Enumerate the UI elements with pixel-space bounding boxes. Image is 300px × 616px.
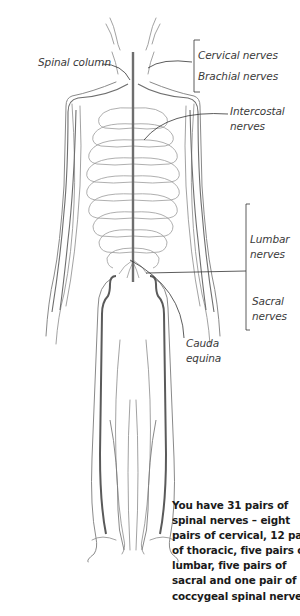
label-cervical-nerves: Cervical nerves [198,45,278,65]
caption-text: You have 31 pairs of spinal nerves – eig… [172,498,300,604]
caption-line: of thoracic, five pairs of [172,543,300,558]
label-lumbar-nerves: Lumbar nerves [250,232,290,262]
caption-line: lumbar, five pairs of [172,558,300,573]
caption-line: You have 31 pairs of [172,498,300,513]
label-sacral-line1: Sacral [252,295,284,307]
caption-line: pairs of cervical, 12 pairs [172,528,300,543]
label-intercostal-nerves: Intercostal nerves [230,104,285,134]
label-intercostal-line2: nerves [230,120,265,132]
label-sacral-line2: nerves [252,310,287,322]
label-cauda-line2: equina [186,352,221,364]
caption-line: sacral and one pair of [172,573,300,588]
label-cauda-line1: Cauda [186,337,219,349]
caption-line: spinal nerves – eight [172,513,300,528]
label-cauda-equina: Cauda equina [186,336,221,366]
label-sacral-nerves: Sacral nerves [252,294,287,324]
spinal-nerves-figure: Spinal column Cervical nerves Brachial n… [0,0,300,616]
label-lumbar-line2: nerves [250,248,285,260]
label-spinal-column: Spinal column [38,52,111,72]
caption-line: coccygeal spinal nerves. [172,589,300,604]
label-intercostal-line1: Intercostal [230,105,285,117]
label-lumbar-line1: Lumbar [250,233,290,245]
label-brachial-nerves: Brachial nerves [198,66,278,86]
